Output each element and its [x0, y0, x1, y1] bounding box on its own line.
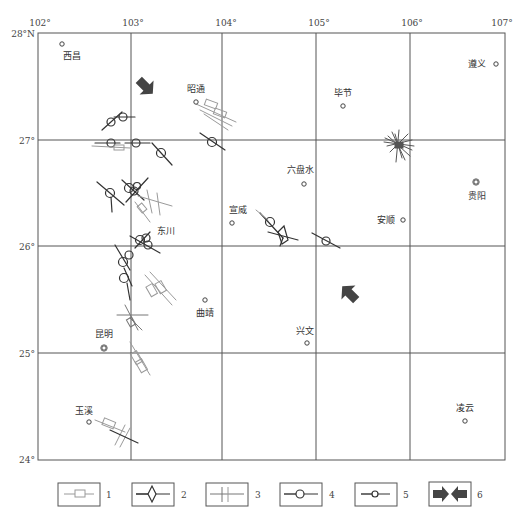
city-dot-icon [341, 104, 345, 108]
symbol-group-dongchuan[interactable] [130, 232, 160, 253]
longitude-label: 105° [308, 18, 330, 28]
city-marker[interactable]: 昭通 [187, 84, 205, 104]
legend-num-2: 2 [181, 490, 187, 500]
symbol-light-xuanwei [256, 210, 268, 220]
city-label: 昆明 [95, 329, 113, 339]
city-dot-icon [474, 180, 478, 184]
city-dot-icon [494, 62, 498, 66]
longitude-label: 107° [491, 18, 513, 28]
city-label: 毕节 [334, 87, 352, 98]
small-circle-bar-icon [372, 491, 378, 497]
arrow-northwest-icon [132, 73, 160, 101]
city-marker[interactable]: 昆明 [95, 329, 113, 351]
city-dot-icon [102, 346, 106, 350]
symbol-rect-light-25-6 [145, 272, 176, 305]
legend-num-1: 1 [106, 490, 112, 500]
longitude-label: 104° [215, 18, 237, 28]
city-dot-icon [194, 100, 198, 104]
legend-item-3: 3 [206, 483, 261, 506]
city-dot-icon [87, 420, 91, 424]
longitude-label: 106° [401, 18, 423, 28]
symbol-rect-light-25-0 [130, 342, 150, 375]
city-marker[interactable]: 玉溪 [75, 405, 93, 424]
diamond-bar-icon [148, 486, 156, 502]
latitude-label: 24° [19, 455, 35, 465]
city-label: 安顺 [377, 214, 395, 225]
longitude-label: 102° [29, 18, 51, 28]
stress-arrows [132, 73, 363, 307]
latitude-label: 26° [19, 242, 35, 252]
legend-item-4: 4 [280, 483, 335, 506]
city-marker[interactable]: 六盘水 [287, 164, 314, 186]
symbol-group-yuxi [95, 418, 130, 447]
focal-symbols [92, 99, 414, 447]
city-dot-icon [60, 42, 64, 46]
city-dot-icon [305, 341, 309, 345]
city-label: 遵义 [468, 58, 486, 69]
longitude-label: 103° [122, 18, 144, 28]
city-dot-icon [401, 218, 405, 222]
symbol-group-zhaotong [196, 99, 236, 130]
large-circle-bar-icon [296, 490, 304, 498]
city-label: 东川 [157, 225, 175, 236]
city-dot-icon [203, 298, 207, 302]
city-dot-icon [302, 182, 306, 186]
city-label: 兴文 [296, 325, 314, 336]
symbol-cross-25-3 [117, 305, 148, 330]
city-dot-icon [230, 221, 234, 225]
symbol-column-25-7[interactable] [115, 245, 133, 300]
city-marker[interactable]: 凌云 [456, 402, 474, 423]
city-marker[interactable]: 曲靖 [196, 298, 214, 318]
city-label: 西昌 [63, 51, 81, 61]
legend-num-4: 4 [329, 490, 335, 500]
city-marker[interactable]: 东川 [157, 225, 175, 236]
seismic-stress-map: 102°103°104°105°106°107° 28°N27°26°25°24… [0, 0, 519, 523]
city-dot-icon [463, 419, 467, 423]
legend-num-6: 6 [477, 490, 483, 500]
legend: 1 2 3 4 [58, 482, 483, 506]
symbol-group-103-27[interactable] [95, 112, 225, 165]
legend-num-5: 5 [403, 490, 409, 500]
latitude-label: 25° [19, 349, 35, 359]
city-label: 贵阳 [468, 190, 486, 201]
symbol-cluster-26-5[interactable] [97, 178, 148, 212]
city-marker[interactable]: 贵阳 [468, 179, 486, 201]
city-marker[interactable]: 安顺 [377, 214, 405, 225]
city-label: 宣威 [229, 204, 247, 215]
city-label: 六盘水 [287, 164, 314, 175]
latitude-label: 27° [19, 136, 35, 146]
map-grid [38, 33, 505, 460]
city-label: 昭通 [187, 84, 205, 94]
city-label: 曲靖 [196, 307, 214, 318]
symbol-rect-light-103-27 [92, 145, 130, 150]
city-marker[interactable]: 宣威 [229, 204, 247, 225]
latitude-label: 28°N [11, 29, 35, 39]
rectangle-bar-icon [75, 490, 85, 497]
legend-item-6: 6 [429, 482, 483, 506]
city-marker[interactable]: 兴文 [296, 325, 314, 345]
arrow-right-icon [433, 486, 449, 502]
legend-item-1: 1 [58, 483, 112, 506]
legend-item-5: 5 [355, 483, 409, 506]
legend-num-3: 3 [255, 490, 261, 500]
arrow-southeast-icon [335, 279, 363, 307]
city-marker[interactable]: 毕节 [334, 87, 352, 108]
city-marker[interactable]: 遵义 [468, 58, 498, 69]
arrow-left-icon [451, 486, 467, 502]
city-label: 凌云 [456, 402, 474, 413]
legend-item-2: 2 [132, 483, 187, 506]
longitude-labels: 102°103°104°105°106°107° [29, 18, 513, 28]
city-marker[interactable]: 西昌 [60, 42, 81, 61]
city-label: 玉溪 [75, 405, 93, 416]
latitude-labels: 28°N27°26°25°24° [11, 29, 35, 465]
symbol-cross-light-26-5 [135, 190, 172, 222]
